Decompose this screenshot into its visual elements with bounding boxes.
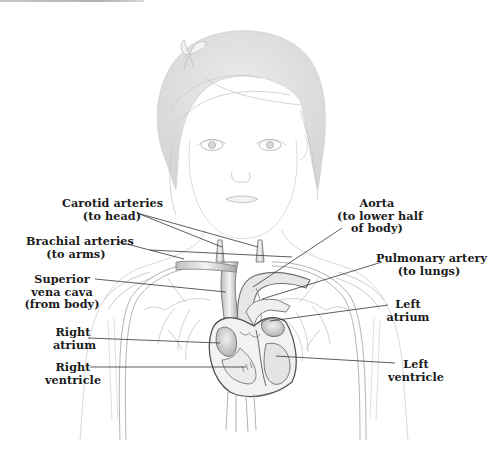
face-sketch xyxy=(173,135,308,239)
carotid-vessels xyxy=(216,240,264,262)
label-aorta-line3: of body) xyxy=(337,222,417,235)
label-aorta-line1: Aorta xyxy=(337,197,417,210)
label-pulmonary-line1: Pulmonary artery xyxy=(376,252,482,265)
label-carotid-line1: Carotid arteries xyxy=(62,197,162,210)
label-left-atrium: Left atrium xyxy=(383,298,433,323)
label-brachial-arteries: Brachial arteries (to arms) xyxy=(26,235,126,260)
label-left-atrium-line2: atrium xyxy=(383,311,433,324)
label-left-ventricle: Left ventricle xyxy=(381,358,451,383)
label-carotid-line2: (to head) xyxy=(62,210,162,223)
label-brachial-line1: Brachial arteries xyxy=(26,235,126,248)
label-svc-line1: Superior xyxy=(22,273,102,286)
leader-brachial xyxy=(119,242,292,259)
label-right-ventricle-line1: Right xyxy=(45,361,101,374)
label-pulmonary-artery: Pulmonary artery (to lungs) xyxy=(376,252,482,277)
label-left-ventricle-line1: Left xyxy=(381,358,451,371)
label-right-atrium: Right atrium xyxy=(53,326,93,351)
label-pulmonary-line2: (to lungs) xyxy=(376,265,482,278)
label-right-atrium-line2: atrium xyxy=(53,339,93,352)
heart xyxy=(209,318,296,397)
label-left-ventricle-line2: ventricle xyxy=(381,371,451,384)
label-carotid-arteries: Carotid arteries (to head) xyxy=(62,197,162,222)
label-left-atrium-line1: Left xyxy=(383,298,433,311)
label-right-atrium-line1: Right xyxy=(53,326,93,339)
label-right-ventricle-line2: ventricle xyxy=(45,374,101,387)
lower-vessels xyxy=(226,392,256,432)
hair-sketch xyxy=(157,31,325,215)
label-aorta: Aorta (to lower half of body) xyxy=(337,197,417,235)
label-superior-vena-cava: Superior vena cava (from body) xyxy=(22,273,102,311)
label-svc-line3: (from body) xyxy=(22,298,102,311)
leader-right-atrium xyxy=(88,338,220,343)
label-brachial-line2: (to arms) xyxy=(26,248,126,261)
label-right-ventricle: Right ventricle xyxy=(45,361,101,386)
